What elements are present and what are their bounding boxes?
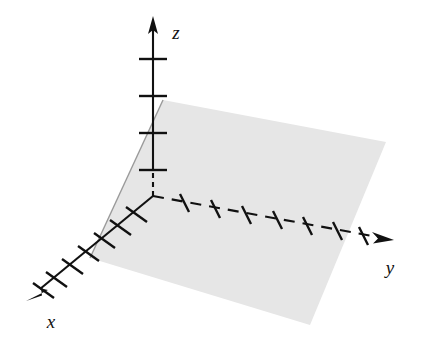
- z-axis-label: z: [171, 22, 180, 43]
- x-axis-label: x: [46, 311, 56, 332]
- y-axis-tick: [359, 227, 368, 245]
- axes-diagram-svg: z y x: [0, 0, 430, 344]
- y-axis-arrowhead: [372, 232, 394, 244]
- coordinate-system-figure: z y x: [0, 0, 430, 344]
- y-axis-label: y: [384, 257, 395, 278]
